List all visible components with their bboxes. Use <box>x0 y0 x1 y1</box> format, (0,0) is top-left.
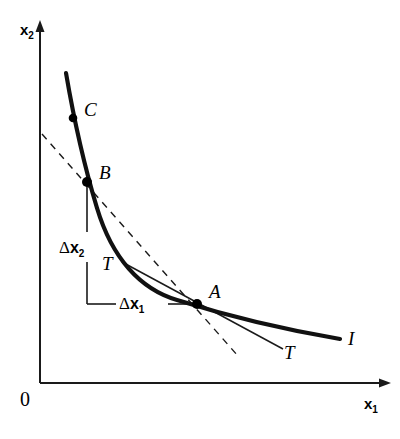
delta-x1-subscript: 1 <box>139 304 145 315</box>
indifference-curve-figure: x2 x1 0 C B A I T T Δx2 Δx1 <box>0 0 400 439</box>
indifference-curve <box>66 73 340 339</box>
delta-x1-var: x <box>130 295 139 312</box>
origin-label: 0 <box>20 389 30 409</box>
delta-x2-subscript: 2 <box>79 248 85 259</box>
x-axis-label-subscript: 1 <box>372 404 378 415</box>
delta-x1-label: Δx1 <box>119 295 144 315</box>
x-axis-label: x1 <box>364 396 378 415</box>
y-axis-label-subscript: 2 <box>28 30 34 41</box>
tangent-line <box>122 262 283 349</box>
point-label-c: C <box>84 100 97 119</box>
y-axis-label: x2 <box>20 22 34 41</box>
y-axis <box>36 20 45 383</box>
delta-x2-symbol: Δ <box>59 238 70 257</box>
point-label-b: B <box>99 163 111 182</box>
point-label-a: A <box>209 282 221 301</box>
x-axis <box>40 379 391 388</box>
point-marker-c <box>69 114 78 123</box>
point-marker-b <box>82 177 92 187</box>
curve-label-i: I <box>348 329 354 348</box>
figure-canvas <box>0 0 400 439</box>
tangent-label-lower: T <box>284 343 295 362</box>
delta-x2-var: x <box>70 239 79 256</box>
delta-x1-symbol: Δ <box>119 294 130 313</box>
tangent-label-upper: T <box>102 254 113 273</box>
delta-x2-label: Δx2 <box>59 239 84 259</box>
point-marker-a <box>192 299 202 309</box>
